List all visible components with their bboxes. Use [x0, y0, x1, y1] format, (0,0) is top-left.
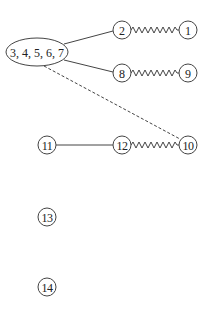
- edge-2-to-1-zigzag: [131, 27, 179, 33]
- node-label: 2: [119, 24, 125, 38]
- node-1: 1: [179, 21, 197, 39]
- edge-12-to-10-zigzag: [131, 142, 179, 148]
- node-label: 9: [185, 67, 191, 81]
- node-14: 14: [38, 278, 56, 296]
- node-label: 14: [42, 281, 54, 295]
- edge-group-to-2: [64, 31, 113, 44]
- node-9: 9: [179, 64, 197, 82]
- node-label: 1: [185, 24, 191, 38]
- edge-group-to-10-dashed: [44, 66, 180, 139]
- node-label: 12: [117, 139, 129, 153]
- node-2: 2: [113, 21, 131, 39]
- graph-diagram: 3, 4, 5, 6, 7 2 1 8 9 11 12 10 13 14: [0, 0, 211, 309]
- node-label: 11: [42, 139, 53, 153]
- node-8: 8: [113, 64, 131, 82]
- node-12: 12: [113, 136, 131, 154]
- edge-group-to-8: [64, 60, 113, 72]
- node-13: 13: [38, 208, 56, 226]
- node-label: 10: [183, 139, 195, 153]
- node-group-3-4-5-6-7: 3, 4, 5, 6, 7: [6, 38, 68, 66]
- node-label: 8: [119, 67, 125, 81]
- node-10: 10: [179, 136, 197, 154]
- edge-8-to-9-zigzag: [131, 70, 179, 76]
- node-label: 3, 4, 5, 6, 7: [10, 46, 64, 60]
- node-11: 11: [38, 136, 56, 154]
- node-label: 13: [42, 211, 54, 225]
